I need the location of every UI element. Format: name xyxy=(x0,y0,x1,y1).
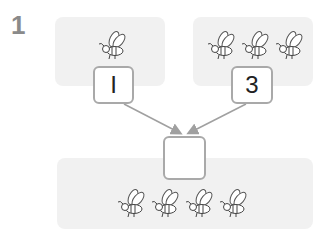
connector-arrows xyxy=(0,0,327,243)
left-arrow xyxy=(124,104,180,133)
right-count-box: 3 xyxy=(231,66,273,104)
right-arrow xyxy=(189,104,246,133)
answer-box[interactable] xyxy=(163,136,206,180)
left-count-box: I xyxy=(93,66,134,104)
